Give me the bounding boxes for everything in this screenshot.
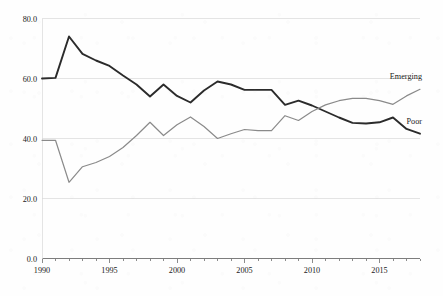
y-tick-label-80: 80.0 bbox=[23, 15, 37, 24]
line-chart: 0.020.040.060.080.0 19901995200020052010… bbox=[0, 0, 443, 296]
x-tick-label-2000: 2000 bbox=[169, 266, 185, 275]
x-tick-label-2005: 2005 bbox=[236, 266, 252, 275]
y-tick-label-0: 0.0 bbox=[27, 255, 37, 264]
x-tick-label-1990: 1990 bbox=[34, 266, 50, 275]
y-tick-label-20: 20.0 bbox=[23, 195, 37, 204]
series-label-poor: Poor bbox=[407, 117, 423, 126]
y-tick-label-40: 40.0 bbox=[23, 135, 37, 144]
series-label-emerging: Emerging bbox=[390, 72, 422, 81]
x-tick-label-1995: 1995 bbox=[101, 266, 117, 275]
x-tick-label-2010: 2010 bbox=[304, 266, 320, 275]
y-tick-label-60: 60.0 bbox=[23, 75, 37, 84]
x-tick-label-2015: 2015 bbox=[371, 266, 387, 275]
chart-canvas: 0.020.040.060.080.0 19901995200020052010… bbox=[0, 0, 443, 296]
